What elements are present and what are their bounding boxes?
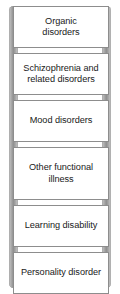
- rung-label-mood: Mood disorders: [28, 115, 95, 126]
- rung-label-learning: Learning disability: [23, 220, 100, 231]
- ladder-diagram: Organicdisorders Schizophrenia and relat…: [0, 0, 120, 294]
- rung-label-personality: Personality disorder: [19, 267, 103, 278]
- rung-organic: Organicdisorders: [13, 6, 109, 48]
- rung-label-other-functional: Other functional illness: [14, 162, 108, 185]
- rung-other-functional: Other functional illness: [13, 147, 109, 200]
- rung-label-organic: Organicdisorders: [40, 16, 81, 39]
- rung-label-schizophrenia: Schizophrenia and related disorders: [14, 63, 108, 86]
- ladder-rungs: Organicdisorders Schizophrenia and relat…: [13, 6, 109, 288]
- rung-mood: Mood disorders: [13, 100, 109, 142]
- rung-personality: Personality disorder: [13, 252, 109, 294]
- rung-schizophrenia: Schizophrenia and related disorders: [13, 53, 109, 95]
- rung-learning: Learning disability: [13, 205, 109, 247]
